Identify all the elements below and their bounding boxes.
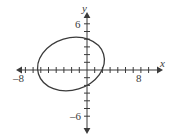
x-axis-label: x [160, 58, 165, 69]
x-tick-label-neg8: –8 [13, 73, 24, 84]
y-axis-arrow-down [84, 128, 91, 134]
y-tick-label-neg6: –6 [70, 111, 81, 122]
x-tick-label-8: 8 [136, 73, 142, 84]
ellipse-curve [31, 29, 111, 99]
y-tick-label-6: 6 [75, 19, 81, 30]
coordinate-plot-svg [0, 0, 171, 138]
graph-figure: y x 6 –6 –8 8 [0, 0, 171, 138]
y-axis-label: y [82, 3, 87, 14]
